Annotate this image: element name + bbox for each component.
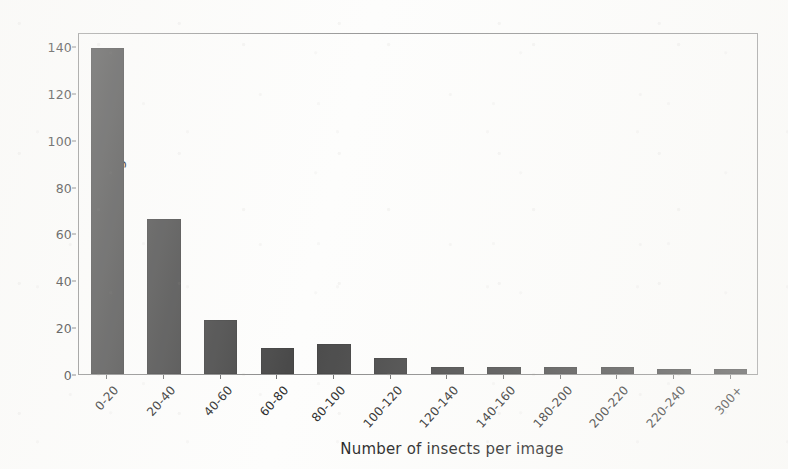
y-axis-tick-mark [72, 234, 76, 235]
y-axis-tick-mark [72, 328, 76, 329]
bar [374, 358, 407, 374]
x-axis-tick-mark [446, 375, 447, 379]
y-axis-tick-labels: 020406080100120140 [36, 0, 72, 469]
x-axis-tick-mark [220, 375, 221, 379]
bar [657, 369, 690, 374]
x-axis-tick-label: 200-220 [587, 383, 632, 431]
x-axis-tick-label: 140-160 [474, 383, 519, 431]
x-axis-tick-label: 0-20 [93, 383, 122, 413]
x-axis-tick-mark [390, 375, 391, 379]
y-axis-tick-label: 60 [56, 227, 72, 242]
y-axis-tick-label: 0 [64, 368, 72, 383]
y-axis-tick-label: 20 [56, 321, 72, 336]
x-axis-tick-label: 20-40 [144, 383, 178, 419]
bar [147, 219, 180, 374]
histogram-figure: Number of images 020406080100120140 0-20… [0, 0, 788, 469]
bar [317, 344, 350, 374]
x-axis-tick-label: 40-60 [201, 383, 235, 419]
x-axis-tick-label: 100-120 [360, 383, 405, 431]
x-axis-tick-mark [673, 375, 674, 379]
x-axis-tick-mark [106, 375, 107, 379]
bar [544, 367, 577, 374]
plot-area [78, 33, 758, 375]
bars-layer [79, 34, 757, 374]
y-axis-tick-label: 120 [48, 86, 72, 101]
y-axis-tick-label: 140 [48, 40, 72, 55]
y-axis-tick-mark [72, 375, 76, 376]
bar [601, 367, 634, 374]
x-axis-tick-mark [730, 375, 731, 379]
x-axis-tick-label: 180-200 [530, 383, 575, 431]
x-axis-title: Number of insects per image [0, 440, 788, 458]
bar [487, 367, 520, 374]
x-axis-tick-label: 220-240 [644, 383, 689, 431]
x-axis-tick-label: 80-100 [309, 383, 349, 425]
y-axis-tick-mark [72, 140, 76, 141]
x-axis-tick-mark [503, 375, 504, 379]
bar [714, 369, 747, 374]
x-axis-tick-mark [333, 375, 334, 379]
bar [91, 48, 124, 374]
y-axis-tick-mark [72, 281, 76, 282]
y-axis-tick-label: 100 [48, 133, 72, 148]
x-axis-tick-label: 60-80 [257, 383, 291, 419]
bar [204, 320, 237, 374]
x-axis-title-text: Number of insects per image [340, 440, 564, 458]
x-axis-tick-mark [163, 375, 164, 379]
y-axis-tick-mark [72, 47, 76, 48]
x-axis-tick-label: 120-140 [417, 383, 462, 431]
x-axis-tick-mark [276, 375, 277, 379]
y-axis-tick-label: 40 [56, 274, 72, 289]
bar [261, 348, 294, 374]
x-axis-tick-mark [616, 375, 617, 379]
x-axis-tick-label: 300+ [712, 383, 745, 417]
y-axis-tick-mark [72, 187, 76, 188]
x-axis-tick-mark [560, 375, 561, 379]
bar [431, 367, 464, 374]
y-axis-tick-label: 80 [56, 180, 72, 195]
y-axis-tick-mark [72, 93, 76, 94]
